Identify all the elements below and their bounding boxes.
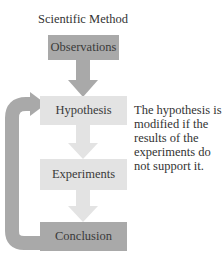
step-label: Experiments <box>52 167 115 182</box>
arrow-hypothesis-to-experiments-icon <box>68 125 98 159</box>
arrow-experiments-to-conclusion-icon <box>68 190 98 222</box>
step-hypothesis: Hypothesis <box>40 96 127 125</box>
arrow-observations-to-hypothesis-icon <box>68 60 98 97</box>
step-label: Conclusion <box>55 229 112 244</box>
feedback-note: The hypothesis is modified if the result… <box>134 103 224 173</box>
step-conclusion: Conclusion <box>40 222 127 251</box>
step-label: Observations <box>51 40 117 55</box>
step-observations: Observations <box>48 35 119 60</box>
step-experiments: Experiments <box>40 159 127 190</box>
step-label: Hypothesis <box>55 103 111 118</box>
